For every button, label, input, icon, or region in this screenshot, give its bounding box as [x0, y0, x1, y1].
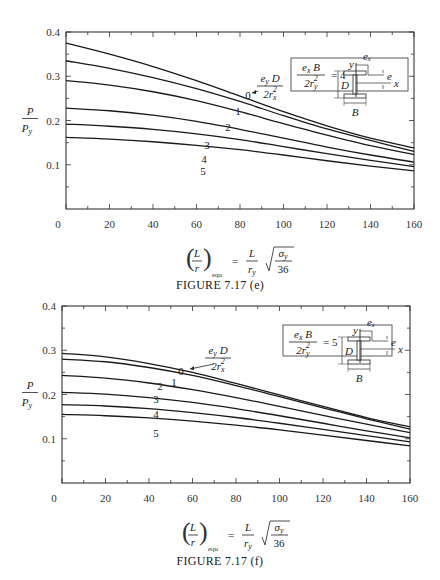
y-tick-label: 0.2: [46, 115, 60, 127]
figure-caption: FIGURE 7.17 (f): [177, 554, 264, 568]
svg-text:=: =: [232, 255, 238, 267]
svg-text:ex B: ex B: [294, 328, 312, 342]
x-tick-label: 40: [144, 492, 156, 504]
svg-text:=: =: [228, 529, 234, 541]
figure-caption: FIGURE 7.17 (e): [176, 278, 264, 292]
x-tick-label: 40: [148, 218, 160, 230]
svg-text:r: r: [191, 536, 196, 548]
x-tick-label: 0: [55, 218, 61, 230]
svg-text:L: L: [189, 521, 196, 533]
x-tick-label: 20: [100, 492, 112, 504]
curve-label-1: 1: [171, 376, 177, 388]
y-tick-label: 0.4: [46, 26, 60, 38]
y-tick-label: 0.1: [46, 159, 60, 171]
curve-label-5: 5: [200, 165, 206, 177]
svg-text:ry: ry: [244, 537, 252, 551]
x-tick-label: 80: [231, 492, 243, 504]
curve-4: [62, 405, 410, 442]
svg-text:eₓ: eₓ: [363, 50, 371, 62]
x-tick-label: 60: [191, 218, 203, 230]
curve-5: [62, 414, 410, 445]
svg-text:L: L: [248, 247, 255, 259]
y-tick-label: 0.1: [42, 433, 56, 445]
curve-label-3: 3: [204, 139, 210, 151]
svg-text:2ry2: 2ry2: [296, 341, 310, 358]
svg-text:): ): [203, 243, 212, 272]
curve-parameter-denominator: 2rx2: [211, 357, 225, 374]
x-tick-label: 100: [275, 218, 292, 230]
y-axis-label-denominator: Py: [21, 396, 33, 410]
svg-text:2ry2: 2ry2: [304, 74, 318, 91]
svg-text:y: y: [348, 58, 354, 70]
svg-text:L: L: [193, 247, 200, 259]
y-axis-label-numerator: P: [26, 379, 34, 391]
curve-label-2: 2: [225, 121, 231, 133]
svg-text:x: x: [397, 343, 403, 355]
x-tick-label: 120: [315, 492, 332, 504]
curve-label-4: 4: [201, 153, 207, 165]
x-axis-label: (Lr)equ=Lryσy36: [182, 517, 290, 553]
x-tick-label: 120: [319, 218, 336, 230]
y-tick-label: 0.3: [42, 344, 56, 356]
chart-f: 0204060801001201401600.10.20.30.4PPy0123…: [21, 300, 419, 568]
y-tick-label: 0.2: [42, 389, 56, 401]
chart-e: 0204060801001201401600.10.20.30.4PPy0123…: [21, 26, 423, 292]
svg-text:36: 36: [274, 537, 286, 549]
y-tick-label: 0.4: [42, 300, 56, 312]
y-tick-label: 0.3: [46, 70, 60, 82]
svg-text:ex B: ex B: [302, 61, 320, 75]
svg-text:): ): [199, 517, 208, 546]
svg-text:equ: equ: [208, 545, 219, 553]
svg-text:B: B: [356, 372, 363, 384]
curve-label-0: 0: [245, 89, 251, 101]
x-tick-label: 20: [104, 218, 116, 230]
x-tick-label: 0: [51, 492, 57, 504]
curve-label-0: 0: [178, 365, 184, 377]
svg-text:L: L: [244, 521, 251, 533]
svg-text:y: y: [352, 324, 358, 336]
curve-parameter-numerator: ey D: [260, 72, 279, 86]
y-axis-label-denominator: Py: [21, 122, 33, 136]
svg-text:e: e: [391, 336, 396, 348]
svg-text:σy: σy: [279, 247, 288, 261]
curve-label-3: 3: [153, 393, 159, 405]
x-tick-label: 60: [187, 492, 199, 504]
curve-2: [66, 81, 414, 155]
curve-label-1: 1: [235, 105, 241, 117]
parameter-value: = 5: [323, 336, 338, 348]
curve-parameter-denominator: 2rx2: [263, 85, 277, 102]
svg-text:eₓ: eₓ: [367, 316, 375, 328]
curve-parameter-numerator: ey D: [208, 344, 227, 358]
curve-4: [66, 124, 414, 166]
x-axis-label: (Lr)equ=Lryσy36: [186, 243, 294, 279]
curve-label-4: 4: [153, 408, 159, 420]
i-beam-section-icon: yxeₓeDB: [334, 50, 399, 118]
svg-text:D: D: [344, 345, 353, 357]
figure-canvas: 0204060801001201401600.10.20.30.4PPy0123…: [0, 0, 440, 580]
curve-label-2: 2: [157, 380, 163, 392]
svg-text:e: e: [387, 70, 392, 82]
y-axis-label-numerator: P: [26, 105, 34, 117]
x-tick-label: 80: [235, 218, 247, 230]
x-tick-label: 140: [362, 218, 379, 230]
x-tick-label: 160: [406, 218, 423, 230]
svg-text:D: D: [340, 79, 349, 91]
x-tick-label: 160: [402, 492, 419, 504]
svg-text:σy: σy: [275, 521, 284, 535]
curve-label-5: 5: [153, 427, 159, 439]
svg-text:x: x: [393, 77, 399, 89]
i-beam-section-icon: yxeₓeDB: [338, 316, 403, 384]
plot-frame: [66, 32, 414, 209]
svg-text:36: 36: [278, 263, 290, 275]
x-tick-label: 100: [271, 492, 288, 504]
svg-text:B: B: [352, 106, 359, 118]
svg-text:ry: ry: [248, 263, 256, 277]
x-tick-label: 140: [358, 492, 375, 504]
svg-text:r: r: [195, 262, 200, 274]
